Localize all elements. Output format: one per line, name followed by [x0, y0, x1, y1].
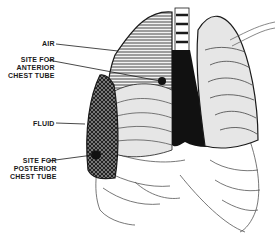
label-fluid: FLUID [33, 120, 55, 128]
label-line: CHEST TUBE [8, 72, 55, 80]
label-line: CHEST TUBE [10, 173, 57, 181]
label-fluid-text: FLUID [33, 120, 55, 128]
label-posterior-tube-site: SITE FOR POSTERIOR CHEST TUBE [10, 157, 57, 181]
fluid-region [87, 75, 118, 179]
label-anterior-tube-site: SITE FOR ANTERIOR CHEST TUBE [8, 56, 55, 80]
label-air-text: AIR [42, 40, 55, 48]
label-air: AIR [42, 40, 55, 48]
trachea [175, 8, 189, 53]
label-line: SITE FOR [8, 56, 55, 64]
chest-diagram [0, 0, 277, 234]
label-line: ANTERIOR [8, 64, 55, 72]
label-line: SITE FOR [10, 157, 57, 165]
label-line: POSTERIOR [10, 165, 57, 173]
